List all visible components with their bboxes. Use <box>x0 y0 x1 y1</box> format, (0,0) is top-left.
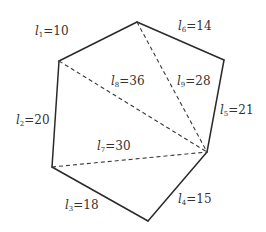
label-l7: l7=30 <box>97 140 131 154</box>
label-l2: l2=20 <box>16 114 50 128</box>
label-l8: l8=36 <box>111 75 145 89</box>
edge-l4 <box>148 152 207 221</box>
edge-l1 <box>59 22 137 61</box>
label-l6: l6=14 <box>178 20 212 34</box>
label-l5: l5=21 <box>220 104 254 118</box>
diagonal-l7 <box>52 152 207 167</box>
label-l3: l3=18 <box>65 199 99 213</box>
edge-l2 <box>52 61 59 167</box>
label-l1: l1=10 <box>35 25 69 39</box>
label-l4: l4=15 <box>178 193 212 207</box>
label-l9: l9=28 <box>177 75 211 89</box>
